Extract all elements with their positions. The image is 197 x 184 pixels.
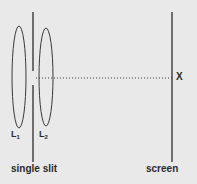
lens-1-label-text: L <box>11 129 17 139</box>
point-x-label: X <box>176 72 183 82</box>
lens-1-label: L1 <box>11 130 20 139</box>
lens-2-label-subscript: 2 <box>45 134 48 140</box>
single-slit-caption: single slit <box>11 164 57 174</box>
lens-2-shape <box>39 28 53 126</box>
optics-diagram: L1 L2 X single slit screen <box>0 0 197 184</box>
diagram-canvas <box>0 0 197 184</box>
lens-1-label-subscript: 1 <box>17 134 20 140</box>
lens-1-shape <box>12 26 26 128</box>
screen-caption: screen <box>146 164 178 174</box>
lens-2-label-text: L <box>39 129 45 139</box>
lens-2-label: L2 <box>39 130 48 139</box>
